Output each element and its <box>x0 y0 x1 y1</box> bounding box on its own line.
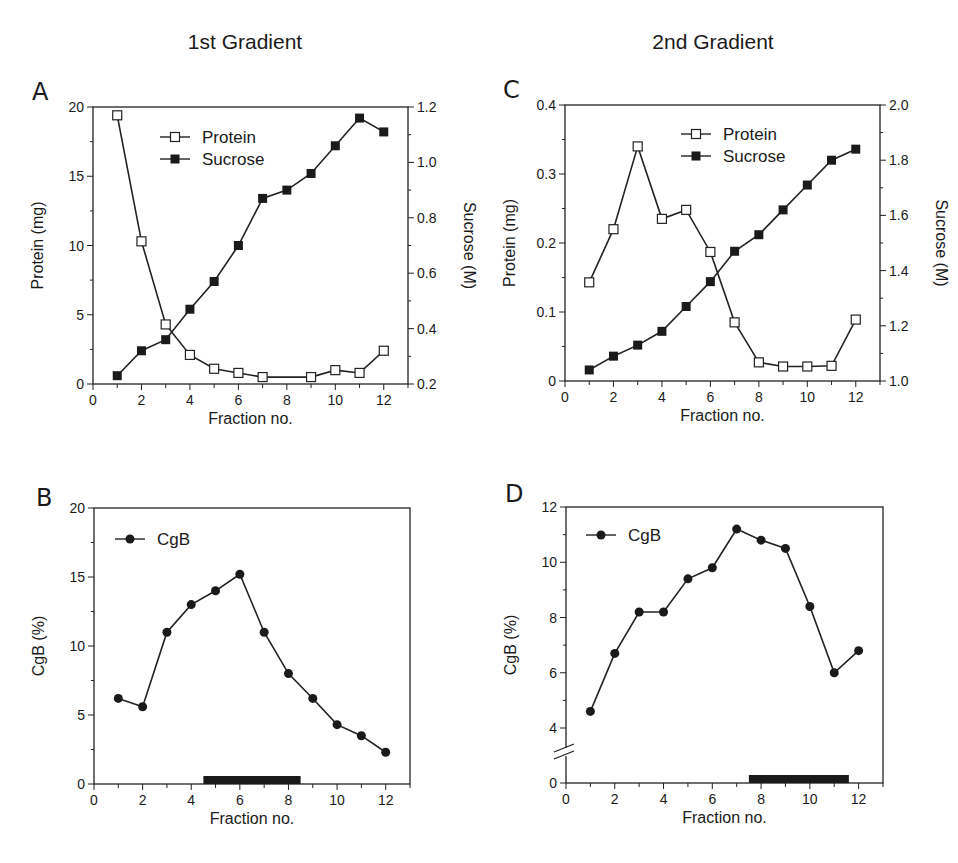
series-line <box>589 149 856 370</box>
filled-circle-marker-icon <box>781 544 790 553</box>
y2-tick-label: 0.4 <box>417 321 437 337</box>
x-tick-label: 6 <box>706 389 714 405</box>
open-square-marker-icon <box>827 361 836 370</box>
filled-circle-marker-icon <box>610 649 619 658</box>
filled-circle-marker-icon <box>597 531 606 540</box>
y-tick-label: 20 <box>69 500 85 516</box>
filled-square-marker-icon <box>706 277 715 286</box>
filled-circle-marker-icon <box>659 607 668 616</box>
filled-square-marker-icon <box>171 155 180 164</box>
open-square-marker-icon <box>779 362 788 371</box>
y-tick-label: 10 <box>69 638 85 654</box>
y-tick-label: 0.2 <box>537 235 557 251</box>
chart-panel-b: 024681012Fraction no.05101520CgB (%)CgB <box>30 500 410 827</box>
y-tick-label: 0 <box>77 776 85 792</box>
x-axis-title: Fraction no. <box>210 810 294 827</box>
filled-square-marker-icon <box>331 141 340 150</box>
open-square-marker-icon <box>210 364 219 373</box>
filled-square-marker-icon <box>851 145 860 154</box>
open-square-marker-icon <box>379 346 388 355</box>
x-tick-label: 8 <box>285 792 293 808</box>
filled-circle-marker-icon <box>854 646 863 655</box>
x-tick-label: 8 <box>757 791 765 807</box>
filled-square-marker-icon <box>210 277 219 286</box>
legend: ProteinSucrose <box>160 128 264 169</box>
legend-label: CgB <box>628 526 661 545</box>
legend-label: Protein <box>202 128 256 147</box>
filled-circle-marker-icon <box>235 570 244 579</box>
y-axis-title: Protein (mg) <box>29 201 46 289</box>
open-square-marker-icon <box>234 368 243 377</box>
y-tick-label: 0 <box>549 775 557 791</box>
x-tick-label: 10 <box>328 392 344 408</box>
filled-circle-marker-icon <box>708 563 717 572</box>
filled-square-marker-icon <box>258 194 267 203</box>
legend: CgB <box>586 526 661 545</box>
y-tick-label: 4 <box>549 720 557 736</box>
series-line <box>118 574 385 752</box>
y-axis-title: Protein (mg) <box>501 199 518 287</box>
open-square-marker-icon <box>692 130 701 139</box>
series-cgb <box>586 525 863 716</box>
filled-square-marker-icon <box>779 205 788 214</box>
x-tick-label: 2 <box>139 792 147 808</box>
x-tick-label: 2 <box>138 392 146 408</box>
filled-circle-marker-icon <box>138 702 147 711</box>
open-square-marker-icon <box>682 205 691 214</box>
y2-tick-label: 0.6 <box>417 265 437 281</box>
open-square-marker-icon <box>171 133 180 142</box>
filled-circle-marker-icon <box>187 600 196 609</box>
filled-circle-marker-icon <box>126 535 135 544</box>
y2-tick-label: 1.2 <box>889 318 909 334</box>
y-tick-label: 0.4 <box>537 97 557 113</box>
y-tick-label: 10 <box>68 238 84 254</box>
legend-label: Protein <box>723 125 777 144</box>
filled-square-marker-icon <box>185 305 194 314</box>
open-square-marker-icon <box>331 366 340 375</box>
y-tick-label: 10 <box>541 554 557 570</box>
chart-panel-d: 024681012Fraction no.04681012CgB (%)CgB <box>502 499 883 826</box>
x-tick-label: 0 <box>562 791 570 807</box>
x-tick-label: 0 <box>90 792 98 808</box>
y-tick-label: 6 <box>549 665 557 681</box>
filled-square-marker-icon <box>585 365 594 374</box>
y-tick-label: 15 <box>69 569 85 585</box>
y2-axis-title: Sucrose (M) <box>461 202 478 289</box>
y2-tick-label: 1.0 <box>889 373 909 389</box>
legend: CgB <box>115 530 190 549</box>
x-tick-label: 4 <box>186 392 194 408</box>
filled-square-marker-icon <box>113 371 122 380</box>
series-line <box>590 529 858 711</box>
y-tick-label: 0 <box>548 373 556 389</box>
open-square-marker-icon <box>706 247 715 256</box>
open-square-marker-icon <box>355 368 364 377</box>
open-square-marker-icon <box>851 315 860 324</box>
y2-tick-label: 1.8 <box>889 152 909 168</box>
open-square-marker-icon <box>657 214 666 223</box>
legend: ProteinSucrose <box>681 125 785 166</box>
filled-square-marker-icon <box>137 346 146 355</box>
filled-circle-marker-icon <box>732 525 741 534</box>
series-cgb <box>114 570 390 757</box>
y-tick-label: 12 <box>541 499 557 515</box>
x-tick-label: 0 <box>561 389 569 405</box>
series-protein <box>585 142 861 371</box>
x-tick-label: 10 <box>329 792 345 808</box>
filled-square-marker-icon <box>609 352 618 361</box>
x-tick-label: 0 <box>89 392 97 408</box>
x-tick-label: 6 <box>708 791 716 807</box>
filled-square-marker-icon <box>161 335 170 344</box>
y2-axis-title: Sucrose (M) <box>933 199 950 286</box>
filled-square-marker-icon <box>633 341 642 350</box>
filled-circle-marker-icon <box>683 574 692 583</box>
filled-square-marker-icon <box>682 302 691 311</box>
x-tick-label: 4 <box>658 389 666 405</box>
filled-square-marker-icon <box>803 181 812 190</box>
filled-square-marker-icon <box>307 169 316 178</box>
filled-square-marker-icon <box>827 156 836 165</box>
open-square-marker-icon <box>585 278 594 287</box>
open-square-marker-icon <box>307 373 316 382</box>
y-tick-label: 8 <box>549 610 557 626</box>
filled-circle-marker-icon <box>114 694 123 703</box>
y2-tick-label: 0.2 <box>417 376 437 392</box>
